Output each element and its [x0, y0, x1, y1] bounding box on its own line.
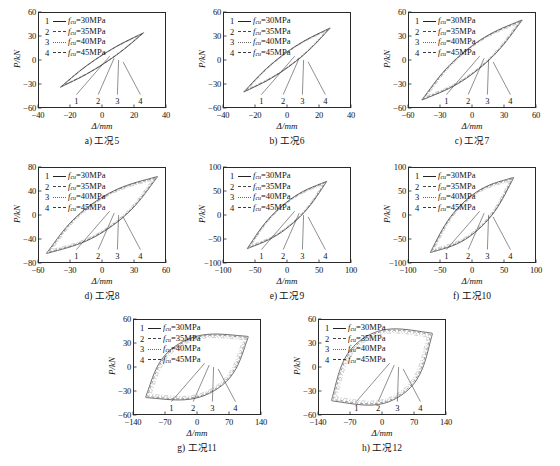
callout-leader-3 — [117, 60, 118, 95]
panel-legend: 1fcu=30MPa2fcu=35MPa3fcu=40MPa4fcu=45MPa — [325, 323, 385, 365]
y-tick-label: 100 — [197, 162, 221, 172]
y-tick-label: −30 — [107, 386, 131, 396]
legend-number: 1 — [325, 323, 332, 334]
legend-number: 1 — [140, 323, 147, 334]
legend-label: fcu=45MPa — [348, 354, 385, 367]
legend-line-dashdot-icon — [238, 207, 251, 208]
legend-number: 2 — [45, 182, 52, 193]
y-tick-label: 30 — [382, 31, 406, 41]
x-tick-label: −50 — [434, 265, 447, 275]
legend-number: 3 — [140, 344, 147, 355]
callout-leader-4 — [308, 62, 325, 95]
y-tick-label: −30 — [292, 386, 316, 396]
callout-number-3: 3 — [115, 96, 119, 106]
callout-leader-3 — [397, 367, 398, 402]
x-axis-label: Δ/mm — [372, 428, 393, 438]
callout-number-1: 1 — [74, 251, 78, 261]
legend-number: 3 — [415, 37, 422, 48]
callout-number-1: 1 — [259, 251, 263, 261]
x-tick-label: −60 — [402, 110, 415, 120]
x-tick-label: −70 — [159, 417, 172, 427]
legend-number: 3 — [415, 192, 422, 203]
panel-b: −60−3003060−40−2002040P/kNΔ/mmb) 工况61fcu… — [185, 0, 370, 155]
callout-leader-3 — [302, 215, 303, 250]
legend-line-dashdot-icon — [423, 207, 436, 208]
callout-leader-4 — [493, 62, 510, 95]
legend-line-dash-icon — [423, 186, 436, 187]
legend-line-solid-icon — [148, 328, 161, 329]
callout-leader-2 — [98, 213, 114, 250]
panel-legend: 1fcu=30MPa2fcu=35MPa3fcu=40MPa4fcu=45MPa — [230, 16, 290, 58]
callout-number-4: 4 — [418, 403, 422, 413]
callout-leader-4 — [123, 62, 140, 95]
x-axis-label: Δ/mm — [187, 428, 208, 438]
x-tick-label: 70 — [410, 417, 418, 427]
callout-number-1: 1 — [259, 96, 263, 106]
y-tick-label: 60 — [197, 7, 221, 17]
x-axis-label: Δ/mm — [462, 121, 483, 131]
x-tick-label: 0 — [100, 110, 104, 120]
legend-line-dash-icon — [53, 186, 66, 187]
panel-caption: c) 工况7 — [455, 133, 490, 147]
legend-line-dot-icon — [423, 42, 436, 43]
x-axis-label: Δ/mm — [277, 276, 298, 286]
y-axis-label: P/kN — [292, 349, 302, 383]
callout-number-4: 4 — [508, 96, 512, 106]
x-tick-label: 100 — [530, 265, 542, 275]
callout-leader-1 — [261, 211, 294, 249]
callout-leader-2 — [283, 213, 299, 250]
x-axis-label: Δ/mm — [462, 276, 483, 286]
x-tick-label: 0 — [470, 110, 474, 120]
y-tick-label: 60 — [107, 314, 131, 324]
callout-leader-3 — [302, 60, 303, 95]
legend-row: 4fcu=45MPa — [45, 48, 105, 59]
legend-row: 4fcu=45MPa — [415, 48, 475, 59]
legend-line-solid-icon — [238, 21, 251, 22]
callout-leader-2 — [468, 213, 484, 250]
callout-number-3: 3 — [300, 96, 304, 106]
x-tick-label: −50 — [249, 265, 262, 275]
x-tick-label: 140 — [255, 417, 267, 427]
callout-number-1: 1 — [354, 403, 358, 413]
x-tick-label: 100 — [345, 265, 357, 275]
legend-number: 2 — [415, 27, 422, 38]
x-tick-label: −40 — [217, 110, 230, 120]
legend-line-dash-icon — [333, 338, 346, 339]
panel-legend: 1fcu=30MPa2fcu=35MPa3fcu=40MPa4fcu=45MPa — [415, 16, 475, 58]
legend-line-dash-icon — [238, 31, 251, 32]
callout-number-1: 1 — [74, 96, 78, 106]
x-tick-label: −100 — [215, 265, 232, 275]
x-tick-label: 50 — [315, 265, 323, 275]
panel-f: −100−50050100−100−50050100P/kNΔ/mmf) 工况1… — [370, 155, 555, 310]
legend-line-dot-icon — [148, 349, 161, 350]
callout-number-2: 2 — [466, 251, 470, 261]
panel-caption: e) 工况9 — [270, 288, 305, 302]
callout-leader-1 — [171, 363, 204, 401]
x-tick-label: 0 — [100, 265, 104, 275]
x-tick-label: 0 — [380, 417, 384, 427]
legend-row: 4fcu=45MPa — [325, 355, 385, 366]
legend-line-solid-icon — [333, 328, 346, 329]
y-tick-label: −30 — [382, 79, 406, 89]
legend-line-dot-icon — [53, 42, 66, 43]
x-tick-label: 0 — [285, 265, 289, 275]
callout-number-4: 4 — [138, 96, 142, 106]
panel-legend: 1fcu=30MPa2fcu=35MPa3fcu=40MPa4fcu=45MPa — [45, 171, 105, 213]
legend-number: 3 — [325, 344, 332, 355]
y-axis-label: P/kN — [12, 197, 22, 231]
legend-line-dash-icon — [423, 31, 436, 32]
legend-line-solid-icon — [53, 21, 66, 22]
legend-number: 1 — [45, 16, 52, 27]
callout-number-2: 2 — [96, 251, 100, 261]
y-axis-label: P/kN — [197, 42, 207, 76]
callout-number-3: 3 — [395, 403, 399, 413]
y-tick-label: 60 — [292, 314, 316, 324]
legend-line-solid-icon — [423, 21, 436, 22]
panel-caption: h) 工况12 — [362, 440, 402, 454]
callout-leader-2 — [193, 365, 209, 402]
legend-number: 4 — [415, 48, 422, 59]
callout-leader-3 — [487, 60, 488, 95]
callout-leader-1 — [76, 211, 109, 249]
y-tick-label: −50 — [197, 234, 221, 244]
callout-leader-3 — [212, 367, 213, 402]
